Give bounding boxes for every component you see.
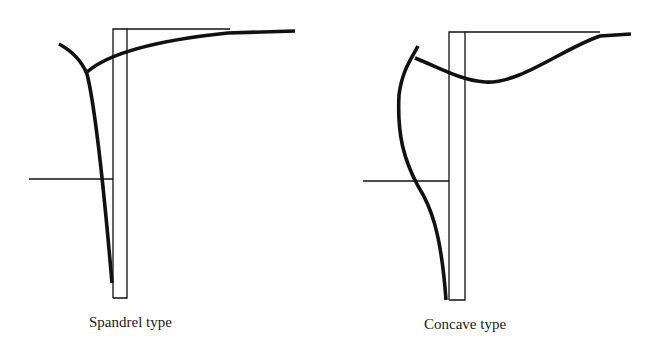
spandrel-upper-curve <box>87 31 295 72</box>
concave-upper-curve <box>415 34 631 82</box>
spandrel-wall <box>113 29 230 298</box>
concave-caption: Concave type <box>424 316 506 333</box>
concave-figure <box>363 32 631 300</box>
spandrel-deflection-curve <box>59 44 112 283</box>
concave-deflection-curve <box>399 46 446 300</box>
spandrel-caption: Spandrel type <box>89 314 172 331</box>
diagram-canvas <box>0 0 660 362</box>
spandrel-figure <box>29 29 295 298</box>
